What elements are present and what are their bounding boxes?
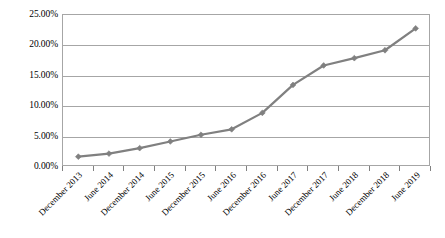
y-tick-label: 20.00% — [2, 39, 58, 49]
data-point-marker — [75, 154, 81, 160]
y-axis: 25.00%20.00%15.00%10.00%5.00%0.00% — [0, 0, 58, 180]
y-tick-label: 25.00% — [2, 9, 58, 19]
line-chart: 25.00%20.00%15.00%10.00%5.00%0.00% Decem… — [0, 0, 445, 238]
x-tick-label: December 2013 — [0, 170, 84, 238]
series-line — [78, 28, 415, 156]
data-point-marker — [198, 132, 204, 138]
series-layer — [63, 15, 431, 167]
data-point-marker — [137, 145, 143, 151]
y-tick-label: 10.00% — [2, 100, 58, 110]
data-point-marker — [167, 139, 173, 145]
x-axis: December 2013June 2014December 2014June … — [0, 170, 445, 238]
plot-area — [62, 14, 430, 166]
y-tick-label: 15.00% — [2, 70, 58, 80]
data-point-marker — [351, 55, 357, 61]
y-tick-label: 5.00% — [2, 131, 58, 141]
data-point-marker — [106, 151, 112, 157]
